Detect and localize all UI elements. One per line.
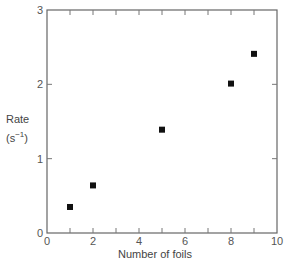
data-point	[228, 81, 234, 87]
data-point	[251, 51, 257, 57]
svg-text:10: 10	[271, 235, 283, 247]
data-point	[159, 127, 165, 133]
y-axis-title: Rate	[6, 112, 29, 127]
x-axis-label: Number of foils	[118, 248, 192, 260]
y-axis-label: Rate (s−1)	[6, 112, 29, 146]
plot-frame	[47, 10, 277, 233]
svg-text:0: 0	[44, 235, 50, 247]
y-axis-unit: (s−1)	[6, 127, 29, 146]
svg-text:6: 6	[182, 235, 188, 247]
svg-text:3: 3	[37, 4, 43, 16]
data-point	[67, 204, 73, 210]
svg-text:1: 1	[37, 153, 43, 165]
svg-text:2: 2	[37, 78, 43, 90]
tick-labels: 02468100123	[37, 4, 283, 247]
data-point	[90, 182, 96, 188]
svg-text:0: 0	[37, 227, 43, 239]
axis-ticks	[47, 10, 277, 233]
svg-text:8: 8	[228, 235, 234, 247]
svg-text:2: 2	[90, 235, 96, 247]
scatter-chart: 02468100123	[0, 0, 288, 267]
data-points	[67, 51, 257, 210]
svg-text:4: 4	[136, 235, 142, 247]
